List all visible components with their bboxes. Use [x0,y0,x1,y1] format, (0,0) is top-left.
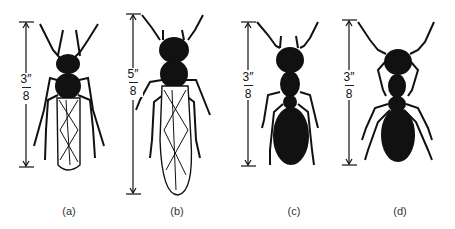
scale-label-a: 3″ 8 [16,73,36,102]
scale-numerator: 3″ [238,71,258,83]
fraction-rule [22,87,31,88]
scale-label-d: 3″ 8 [339,71,359,100]
insect-c-drawing [257,22,318,165]
insect-d-drawing [358,22,434,161]
caption-c: (c) [279,205,309,217]
scale-denominator: 8 [339,88,359,100]
scale-denominator: 8 [238,88,258,100]
insect-a-drawing [34,24,104,170]
caption-a: (a) [54,205,84,217]
insect-comparison-figure [0,0,455,229]
fraction-rule [244,85,253,86]
scale-numerator: 3″ [339,71,359,83]
insect-b-drawing [136,15,210,195]
fraction-rule [345,85,354,86]
scale-numerator: 5″ [123,68,143,80]
scale-numerator: 3″ [16,73,36,85]
caption-b: (b) [162,205,192,217]
panel-b [126,14,210,195]
scale-denominator: 8 [123,85,143,97]
scale-label-b: 5″ 8 [123,68,143,97]
caption-d: (d) [385,205,415,217]
scale-label-c: 3″ 8 [238,71,258,100]
scale-denominator: 8 [16,90,36,102]
fraction-rule [129,82,138,83]
